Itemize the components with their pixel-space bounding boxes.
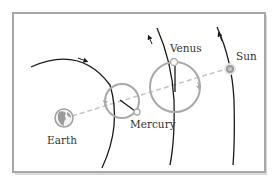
mercury-label: Mercury [130,118,176,130]
diagram-frame [13,13,265,172]
earth-label: Earth [47,134,77,146]
sun-label: Sun [236,50,257,62]
globe-icon [55,109,73,127]
venus-label: Venus [170,42,202,54]
venus-planet [171,59,178,66]
planetary-diagram [0,0,279,192]
sun-icon [224,63,236,75]
mercury-planet [134,109,140,115]
